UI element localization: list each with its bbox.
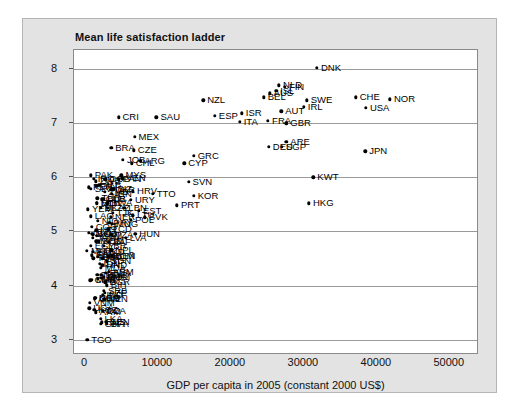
- data-point: [121, 158, 124, 161]
- data-point-label: TTO: [157, 189, 176, 199]
- data-point: [85, 249, 88, 252]
- data-point: [312, 176, 315, 179]
- x-tick-label: 20000: [215, 356, 246, 368]
- data-point: [192, 194, 195, 197]
- y-tick-label: 5: [35, 224, 57, 236]
- data-point-label: USA: [370, 103, 390, 113]
- data-point-label: KWT: [317, 173, 338, 183]
- data-point-label: KOR: [198, 191, 219, 201]
- data-point-label: CHE: [360, 92, 380, 102]
- data-point-label: TZA: [115, 230, 133, 240]
- data-point-label: SVN: [193, 177, 213, 187]
- chart-title: Mean life satisfaction ladder: [75, 31, 225, 43]
- data-point-label: CYP: [188, 158, 208, 168]
- y-tick-label: 8: [35, 62, 57, 74]
- data-point-label: SAU: [160, 112, 180, 122]
- data-point-label: BEL: [268, 92, 286, 102]
- data-point-label: BLZ: [105, 203, 122, 213]
- data-point-label: MKD: [104, 247, 125, 257]
- data-point: [86, 208, 89, 211]
- data-point: [363, 150, 366, 153]
- scatter-plot-area: DNKFINNLDISLAUSBELSWECHENORIRLUSAAUTNZLE…: [73, 49, 478, 354]
- data-point-label: HKG: [313, 199, 334, 209]
- data-point-label: HUN: [139, 229, 160, 239]
- data-point: [280, 110, 283, 113]
- y-axis: 345678: [23, 19, 73, 354]
- y-tick-label: 3: [35, 333, 57, 345]
- x-axis: 01000020000300004000050000: [23, 356, 496, 376]
- data-point: [110, 146, 113, 149]
- data-point-label: MEX: [139, 132, 160, 142]
- y-tick-label: 6: [35, 170, 57, 182]
- data-point: [91, 236, 94, 239]
- data-point: [175, 204, 178, 207]
- gridline-y: [74, 69, 477, 70]
- data-point-label: RUS: [106, 318, 126, 328]
- data-point: [90, 278, 93, 281]
- data-point-label: ESP: [219, 111, 238, 121]
- x-tick-label: 10000: [142, 356, 173, 368]
- data-point: [267, 145, 270, 148]
- data-point-label: NOR: [394, 95, 415, 105]
- data-point: [89, 215, 92, 218]
- data-point: [117, 115, 120, 118]
- data-point: [155, 115, 158, 118]
- data-point-label: DNK: [321, 63, 341, 73]
- y-tick-mark: [69, 68, 73, 69]
- data-point-label: GBR: [290, 118, 311, 128]
- data-point: [133, 135, 136, 138]
- y-tick-mark: [69, 339, 73, 340]
- data-point: [85, 338, 88, 341]
- data-point-label: SGP: [286, 142, 306, 152]
- chart-panel: Mean life satisfaction ladder DNKFINNLDI…: [22, 18, 497, 393]
- x-tick-label: 0: [81, 356, 87, 368]
- data-point: [100, 321, 103, 324]
- data-point-label: JPN: [369, 147, 387, 157]
- data-point-label: ARM: [100, 308, 121, 318]
- gridline-y: [74, 286, 477, 287]
- data-point-label: IRL: [308, 102, 323, 112]
- data-point-label: ITA: [244, 117, 258, 127]
- y-tick-label: 4: [35, 279, 57, 291]
- x-tick-label: 40000: [361, 356, 392, 368]
- y-tick-mark: [69, 176, 73, 177]
- x-tick-label: 30000: [288, 356, 319, 368]
- data-point: [307, 202, 310, 205]
- data-point: [182, 162, 185, 165]
- data-point: [213, 114, 216, 117]
- data-point-label: DOM: [108, 272, 130, 282]
- data-point: [201, 99, 204, 102]
- data-point: [94, 311, 97, 314]
- data-point: [364, 106, 367, 109]
- data-point-label: CRI: [123, 112, 139, 122]
- data-point-label: HRV: [137, 187, 157, 197]
- data-point: [187, 180, 190, 183]
- data-point-label: PRY: [113, 218, 132, 228]
- gridline-y: [74, 340, 477, 341]
- data-point-label: ZWE: [100, 177, 121, 187]
- y-tick-mark: [69, 230, 73, 231]
- data-point-label: FRA: [272, 116, 291, 126]
- data-point-label: NZL: [207, 96, 225, 106]
- y-tick-mark: [69, 122, 73, 123]
- data-point: [87, 307, 90, 310]
- data-point: [266, 119, 269, 122]
- x-tick-label: 50000: [434, 356, 465, 368]
- data-point: [354, 95, 357, 98]
- data-point-label: CHL: [136, 158, 155, 168]
- data-point-label: TGO: [91, 335, 112, 345]
- data-point: [240, 112, 243, 115]
- data-point: [91, 257, 94, 260]
- data-point: [262, 95, 265, 98]
- x-axis-title: GDP per capita in 2005 (constant 2000 US…: [73, 379, 478, 391]
- y-tick-mark: [69, 285, 73, 286]
- data-point: [388, 98, 391, 101]
- data-point: [88, 301, 91, 304]
- data-point-label: PRT: [181, 201, 200, 211]
- y-tick-label: 7: [35, 116, 57, 128]
- data-point: [96, 197, 99, 200]
